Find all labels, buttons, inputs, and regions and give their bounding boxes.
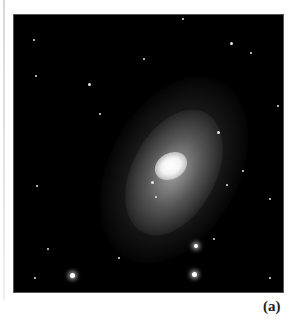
galaxy-image-panel [13, 14, 284, 293]
star [213, 238, 215, 240]
left-divider-line [3, 0, 5, 300]
bright-star [192, 272, 197, 277]
bright-star [194, 244, 198, 248]
star [226, 184, 228, 186]
star [143, 58, 145, 60]
star [47, 248, 49, 250]
star [269, 198, 271, 200]
star [34, 277, 36, 279]
star [242, 170, 244, 172]
star [155, 196, 157, 198]
star [33, 39, 35, 41]
star [182, 18, 184, 20]
star [269, 277, 271, 279]
star [35, 75, 37, 77]
figure-label: (a) [263, 298, 281, 315]
star [151, 181, 154, 184]
star [250, 52, 252, 54]
star [277, 105, 279, 107]
bright-star [70, 273, 75, 278]
star [99, 113, 101, 115]
star [217, 131, 220, 134]
star [88, 83, 91, 86]
star [230, 42, 233, 45]
star [118, 257, 120, 259]
star [36, 185, 38, 187]
